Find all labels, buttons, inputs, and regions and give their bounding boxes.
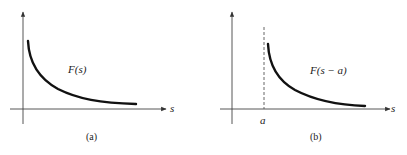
- panel-b: F(s − a) s a (b): [220, 12, 395, 143]
- function-label-a: F(s): [67, 63, 87, 76]
- caption-a: (a): [86, 131, 97, 143]
- function-label-b: F(s − a): [309, 64, 347, 77]
- caption-b: (b): [310, 131, 322, 143]
- x-axis-label-a: s: [170, 102, 174, 114]
- x-axis-label-b: s: [391, 102, 395, 114]
- shift-theorem-diagram: F(s) s (a) F(s − a) s a (b): [0, 0, 407, 155]
- shift-label-a: a: [260, 114, 266, 126]
- panel-a: F(s) s (a): [10, 12, 174, 143]
